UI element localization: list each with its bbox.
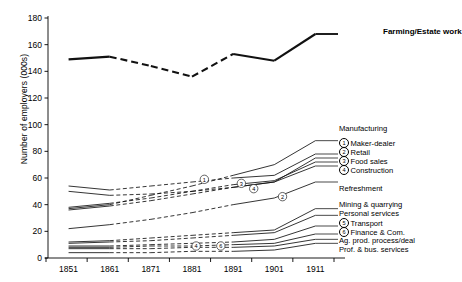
- series-label-text: Mining & quarrying: [339, 200, 402, 209]
- series-label-ag-prod-process-deal: Ag. prod. process/deal: [339, 236, 415, 245]
- series-line-4: [110, 198, 151, 203]
- inline-marker-label: 6: [219, 243, 222, 249]
- series-label-prof-bus-services: Prof. & bus. services: [339, 245, 409, 254]
- x-tick-label: 1851: [59, 264, 78, 274]
- series-line-6: [110, 219, 151, 224]
- series-line-9: [274, 226, 315, 239]
- series-line-7: [151, 235, 192, 238]
- series-line-7: [233, 230, 274, 233]
- series-line-1: [151, 186, 192, 195]
- y-tick-label: 180: [28, 13, 42, 23]
- series-line-6: [233, 198, 274, 205]
- inline-marker-label: 2: [281, 194, 284, 200]
- series-label-text: Prof. & bus. services: [339, 245, 409, 254]
- series-line-9: [151, 243, 192, 244]
- series-line-8: [274, 215, 315, 232]
- y-tick-label: 120: [28, 93, 42, 103]
- series-line-2: [110, 186, 151, 190]
- series-line-3: [274, 158, 315, 182]
- x-tick-label: 1891: [224, 264, 243, 274]
- series-label-text: Construction: [351, 166, 394, 175]
- inline-marker-label: 3: [240, 181, 243, 187]
- series-line-2: [151, 182, 192, 186]
- series-label-mining-quarrying: Mining & quarrying: [339, 200, 402, 209]
- series-label-text: Personal services: [339, 209, 399, 218]
- series-label-text: Manufacturing: [339, 124, 387, 133]
- series-label-text: Ag. prod. process/deal: [339, 236, 415, 245]
- series-line-6: [151, 213, 192, 220]
- series-line-1: [274, 141, 315, 165]
- series-label-text: Farming/Estate work: [383, 27, 462, 36]
- y-tick-label: 80: [33, 146, 43, 156]
- series-line-6: [192, 205, 233, 213]
- series-line-1: [233, 165, 274, 176]
- x-tick-label: 1871: [141, 264, 160, 274]
- series-line-0: [151, 66, 192, 77]
- inline-marker-label: 4: [195, 243, 198, 249]
- series-line-7: [274, 209, 315, 230]
- series-line-8: [110, 241, 151, 242]
- series-line-3: [69, 191, 110, 195]
- series-line-0: [192, 54, 233, 77]
- series-line-10: [110, 246, 151, 247]
- y-tick-label: 140: [28, 66, 42, 76]
- series-line-2: [69, 186, 110, 190]
- x-tick-label: 1861: [100, 264, 119, 274]
- series-line-1: [192, 175, 233, 186]
- y-tick-label: 0: [37, 253, 42, 263]
- legend-marker-4: 4: [339, 165, 349, 175]
- y-tick-label: 100: [28, 120, 42, 130]
- series-line-8: [192, 235, 233, 238]
- series-line-2: [233, 175, 274, 178]
- series-line-5: [110, 201, 151, 206]
- y-tick-label: 40: [33, 200, 43, 210]
- series-line-12: [274, 243, 315, 250]
- series-line-10: [233, 243, 274, 244]
- series-label-refreshment: Refreshment: [339, 184, 382, 193]
- series-line-9: [233, 239, 274, 242]
- series-label-personal-services: Personal services: [339, 209, 399, 218]
- x-tick-label: 1911: [306, 264, 325, 274]
- series-label-text: Refreshment: [339, 184, 382, 193]
- series-line-8: [151, 238, 192, 241]
- inline-marker-label: 1: [203, 177, 206, 183]
- series-line-11: [274, 239, 315, 246]
- series-line-0: [233, 54, 274, 61]
- x-tick-label: 1901: [265, 264, 284, 274]
- series-line-12: [151, 251, 192, 252]
- series-line-10: [274, 234, 315, 243]
- series-line-5: [274, 166, 315, 182]
- series-line-2: [192, 178, 233, 182]
- series-line-7: [192, 233, 233, 236]
- series-line-0: [69, 57, 110, 60]
- series-label-construction: 4Construction: [339, 165, 393, 175]
- series-line-11: [233, 246, 274, 247]
- y-tick-label: 160: [28, 40, 42, 50]
- inline-marker-label: 4: [252, 186, 255, 192]
- series-line-12: [233, 250, 274, 251]
- series-line-7: [110, 238, 151, 241]
- series-line-3: [110, 194, 151, 195]
- series-line-8: [233, 233, 274, 236]
- series-label-manufacturing: Manufacturing: [339, 124, 387, 133]
- y-tick-label: 60: [33, 173, 43, 183]
- series-label-farming-estate-work: Farming/Estate work: [383, 27, 462, 36]
- series-line-6: [69, 225, 110, 229]
- y-tick-label: 20: [33, 226, 43, 236]
- series-line-11: [151, 247, 192, 248]
- series-line-0: [110, 57, 151, 66]
- x-tick-label: 1881: [183, 264, 202, 274]
- series-line-0: [274, 34, 315, 61]
